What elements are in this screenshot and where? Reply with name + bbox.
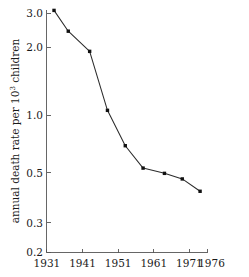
data-point-marker [67, 29, 70, 32]
x-tick-label-1961: 1961 [140, 257, 167, 269]
data-point-marker [124, 144, 127, 147]
y-tick-label-03: 0.3 [26, 217, 43, 229]
data-point-marker [198, 190, 201, 193]
x-tick-label-1931: 1931 [34, 257, 61, 269]
y-tick-label-05: 0.5 [26, 167, 43, 179]
data-point-marker [141, 166, 144, 169]
chart-figure: 3.0 2.0 1.0 0.5 0.3 0.2 1931 1941 1951 1… [0, 0, 249, 277]
y-tick-label-1: 1.0 [26, 109, 43, 121]
data-point-marker [181, 177, 184, 180]
data-point-marker [163, 172, 166, 175]
data-point-marker [88, 50, 91, 53]
x-tick-label-1976: 1976 [198, 257, 225, 269]
x-tick-label-1951: 1951 [105, 257, 132, 269]
y-tick-label-3: 3.0 [26, 7, 43, 19]
y-axis-title: annual death rate per 103 children [9, 38, 21, 223]
y-tick-label-2: 2.0 [26, 41, 43, 53]
data-point-marker [106, 109, 109, 112]
x-tick-label-1941: 1941 [69, 257, 96, 269]
chart-canvas: 3.0 2.0 1.0 0.5 0.3 0.2 1931 1941 1951 1… [0, 0, 249, 277]
y-axis-title-tail: children [9, 38, 21, 86]
data-point-marker [52, 9, 55, 12]
y-axis-title-base: annual death rate per 10 [9, 91, 21, 224]
